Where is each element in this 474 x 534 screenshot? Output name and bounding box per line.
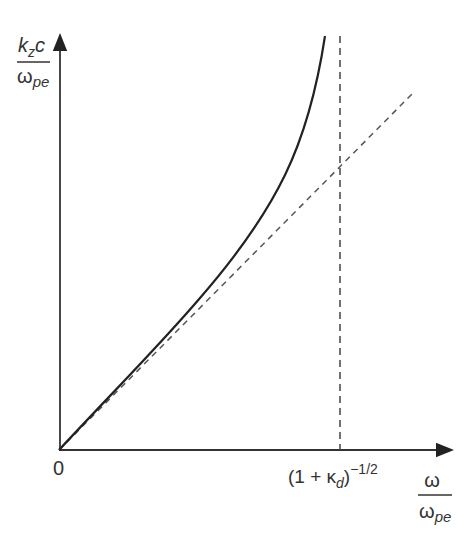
chart: kzc ωpe 0 (1 + κd)−1/2 ω ωpe (0, 0, 474, 534)
x-axis-label: ω ωpe (418, 469, 452, 525)
y-axis-label: kzc ωpe (17, 34, 50, 90)
light-line (59, 92, 414, 450)
dispersion-curve (59, 36, 325, 450)
svg-text:ωpe: ωpe (17, 65, 49, 90)
svg-text:ωpe: ωpe (419, 500, 451, 525)
x-tick-label: (1 + κd)−1/2 (288, 461, 378, 491)
svg-text:kzc: kzc (18, 34, 45, 60)
svg-text:ω: ω (424, 469, 440, 491)
origin-label: 0 (53, 457, 64, 479)
